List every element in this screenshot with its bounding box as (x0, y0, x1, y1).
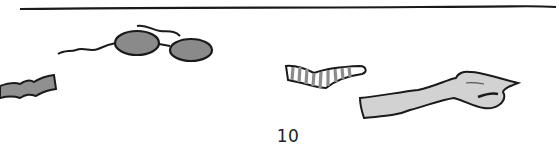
book-page: 10 (0, 0, 559, 157)
glove-icon (360, 72, 518, 118)
striped-sock-icon (286, 66, 366, 88)
page-number: 10 (273, 126, 303, 146)
sunglasses-icon (58, 26, 212, 61)
wavy-strip-icon (0, 75, 56, 98)
horizon-line (20, 6, 556, 9)
